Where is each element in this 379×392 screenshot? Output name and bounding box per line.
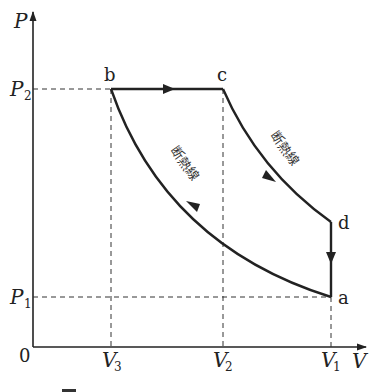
origin-label: 0 bbox=[19, 345, 30, 366]
guide-lines bbox=[33, 89, 331, 347]
process-cd bbox=[223, 89, 331, 222]
adiabatic-label-upper: 断熱線 bbox=[268, 128, 303, 169]
svg-text:1: 1 bbox=[24, 297, 32, 311]
svg-text:2: 2 bbox=[24, 89, 32, 103]
arrow-bc-icon bbox=[163, 84, 175, 94]
cycle-path bbox=[111, 89, 331, 297]
svg-text:1: 1 bbox=[333, 360, 341, 374]
tick-p1: P 1 bbox=[9, 285, 32, 311]
tick-v3: V 3 bbox=[102, 348, 122, 374]
p-axis-label: P bbox=[13, 9, 28, 33]
svg-text:2: 2 bbox=[225, 360, 233, 374]
arrow-ab-icon bbox=[186, 201, 200, 212]
tick-v1: V 1 bbox=[321, 348, 341, 374]
v-axis-label: V bbox=[352, 349, 369, 373]
point-b-label: b bbox=[104, 64, 116, 85]
svg-text:P: P bbox=[9, 77, 24, 101]
svg-text:3: 3 bbox=[114, 360, 122, 374]
arrow-da-icon bbox=[326, 252, 336, 264]
process-ab bbox=[111, 89, 331, 297]
tick-p2: P 2 bbox=[9, 77, 32, 103]
svg-text:P: P bbox=[9, 285, 24, 309]
point-c-label: c bbox=[217, 64, 227, 85]
point-d-label: d bbox=[338, 212, 350, 233]
point-a-label: a bbox=[338, 287, 349, 308]
pv-diagram: P V 0 P 2 P 1 V 3 V 2 V 1 b c d a 断熱線 断熱… bbox=[0, 0, 379, 392]
adiabatic-label-lower: 断熱線 bbox=[168, 143, 203, 184]
tick-v2: V 2 bbox=[213, 348, 233, 374]
